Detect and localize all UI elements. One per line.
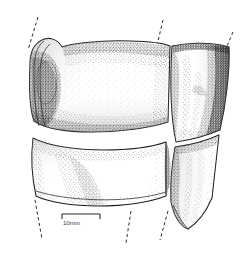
fossil-teeth-illustration: .outline { fill:#ffffff; stroke:#1d1d1d;… <box>0 0 249 253</box>
figure-root: .outline { fill:#ffffff; stroke:#1d1d1d;… <box>0 0 249 253</box>
tooth-upper-left <box>24 34 176 138</box>
scale-bar-label: 10mm <box>63 219 80 226</box>
